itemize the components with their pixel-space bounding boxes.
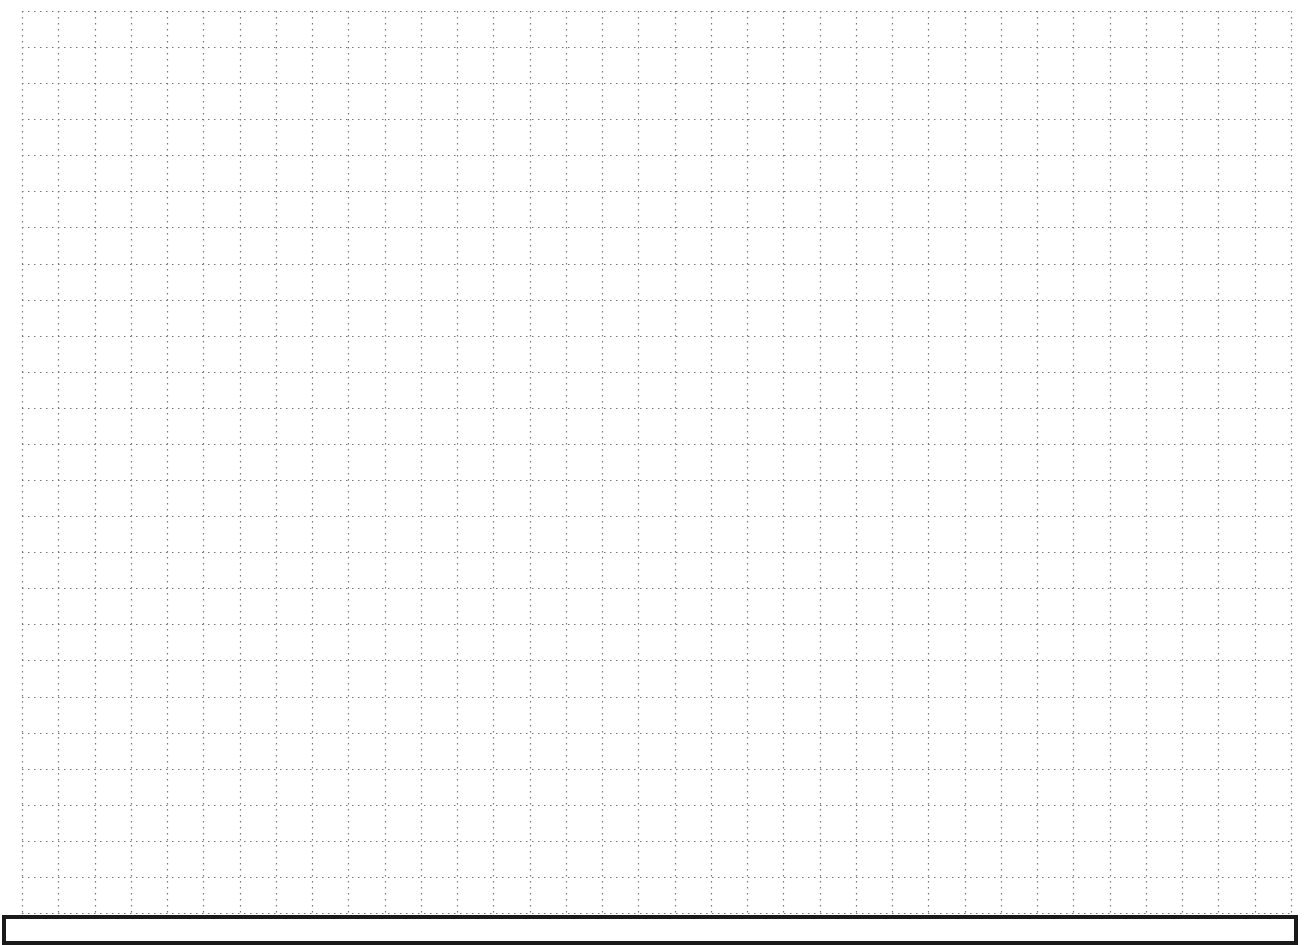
answer-box[interactable] [2, 915, 1298, 945]
